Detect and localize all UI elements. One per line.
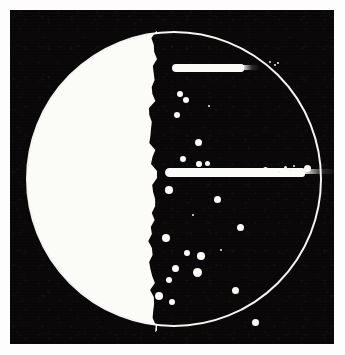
satellite-speck [274, 64, 276, 66]
bacterial-colony [183, 97, 189, 103]
satellite-speck [277, 62, 279, 64]
bacterial-colony [193, 268, 202, 277]
bacterial-colony [205, 161, 210, 166]
bacterial-colony [166, 277, 172, 283]
bacterial-colony [165, 186, 173, 194]
bacterial-colony [232, 287, 239, 294]
bacterial-colony [196, 161, 202, 167]
bacterial-colony [237, 224, 244, 231]
satellite-speck [293, 165, 295, 167]
bacterial-colony [172, 265, 179, 272]
bacterial-colony [195, 139, 202, 146]
satellite-speck [220, 249, 222, 251]
middle-streak-tail [303, 169, 334, 174]
figure-root [0, 0, 345, 355]
bacterial-colony [155, 292, 163, 300]
bacterial-colony [169, 299, 175, 305]
middle-streak [165, 168, 305, 177]
bacterial-colony [197, 252, 205, 260]
satellite-speck [208, 105, 210, 107]
satellite-speck [269, 61, 272, 64]
upper-streak-tail [242, 65, 260, 69]
confluent-growth-lawn [26, 26, 157, 332]
bacterial-colony [252, 319, 259, 326]
upper-streak [172, 64, 244, 72]
culture-plate-photograph [10, 10, 334, 344]
bacterial-colony [214, 196, 221, 203]
satellite-speck [284, 166, 287, 169]
